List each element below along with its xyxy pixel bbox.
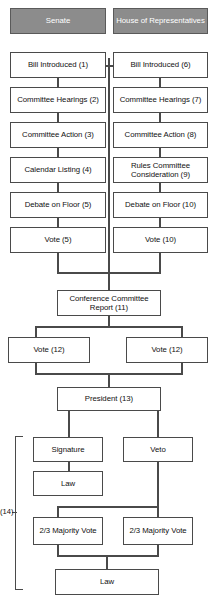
node-conference-vote-senate-label: Vote (12) (31, 345, 66, 354)
connector-s2-s3 (57, 113, 59, 122)
node-house-vote: Vote (10) (113, 227, 208, 253)
node-majority-vote-left: 2/3 Majority Vote (33, 517, 103, 545)
node-law-after-signature: Law (33, 471, 103, 496)
node-conference-committee-report-label: Conference Committee Report (11) (58, 294, 160, 313)
connector-merge-to-final-law (106, 555, 108, 569)
node-conference-committee-report: Conference Committee Report (11) (57, 290, 161, 316)
connector-merge-to-president (108, 373, 110, 387)
column-header-senate-label: Senate (44, 16, 72, 25)
node-president-label: President (13) (83, 394, 135, 403)
node-senate-committee-hearings-label: Committee Hearings (2) (15, 95, 101, 104)
connector-s1-s2 (57, 78, 59, 87)
legislative-process-flowchart: Senate House of Representatives Bill Int… (0, 0, 218, 608)
node-president: President (13) (57, 387, 161, 411)
column-header-house: House of Representatives (113, 8, 208, 34)
connector-override-merge-bar (57, 555, 159, 557)
node-senate-calendar-listing-label: Calendar Listing (4) (22, 165, 93, 174)
connector-s3-s4 (57, 148, 59, 157)
node-signature: Signature (33, 437, 103, 462)
node-house-bill-introduced: Bill Introduced (6) (113, 52, 208, 78)
connector-s4-s5 (57, 183, 59, 192)
node-senate-committee-action-label: Committee Action (3) (20, 130, 96, 139)
connector-s5-s6 (57, 218, 59, 227)
node-senate-committee-hearings: Committee Hearings (2) (10, 87, 106, 113)
node-conference-vote-senate: Vote (12) (8, 337, 90, 363)
node-house-committee-hearings: Committee Hearings (7) (113, 87, 208, 113)
connector-president-to-veto (157, 411, 159, 437)
node-law-after-signature-label: Law (59, 479, 77, 488)
node-senate-bill-introduced-label: Bill Introduced (1) (26, 60, 90, 69)
connector-override-split-bar (57, 506, 159, 508)
node-house-committee-hearings-label: Committee Hearings (7) (118, 95, 204, 104)
node-house-committee-action-label: Committee Action (8) (123, 130, 199, 139)
connector-conference-split-bar (35, 326, 183, 328)
connector-senate-vote-down (57, 253, 59, 274)
node-house-debate-on-floor: Debate on Floor (10) (113, 192, 208, 218)
node-veto: Veto (123, 437, 193, 462)
node-house-debate-on-floor-label: Debate on Floor (10) (123, 200, 198, 209)
node-senate-calendar-listing: Calendar Listing (4) (10, 157, 106, 183)
node-senate-vote: Vote (5) (10, 227, 106, 253)
node-senate-committee-action: Committee Action (3) (10, 122, 106, 148)
node-veto-label: Veto (148, 445, 167, 454)
node-senate-debate-on-floor-label: Debate on Floor (5) (23, 200, 94, 209)
annotation-14: (14) (0, 507, 14, 516)
column-header-senate: Senate (10, 8, 106, 34)
node-house-rules-committee-label: Rules Committee Consideration (9) (114, 161, 207, 180)
node-majority-vote-left-label: 2/3 Majority Vote (37, 526, 98, 535)
connector-house-vote-down (159, 253, 161, 274)
connector-h4-h5 (159, 183, 161, 192)
connector-veto-down (157, 462, 159, 508)
connector-h5-h6 (159, 218, 161, 227)
node-senate-debate-on-floor: Debate on Floor (5) (10, 192, 106, 218)
node-house-rules-committee: Rules Committee Consideration (9) (113, 157, 208, 183)
connector-merge-to-conference (108, 272, 110, 290)
node-signature-label: Signature (50, 445, 87, 454)
connector-h3-h4 (159, 148, 161, 157)
node-house-committee-action: Committee Action (8) (113, 122, 208, 148)
node-house-vote-label: Vote (10) (143, 235, 178, 244)
column-header-house-label: House of Representatives (114, 16, 207, 25)
node-senate-vote-label: Vote (5) (43, 235, 74, 244)
node-majority-vote-right-label: 2/3 Majority Vote (127, 526, 188, 535)
node-conference-vote-house: Vote (12) (126, 337, 208, 363)
connector-president-to-signature (68, 411, 70, 437)
node-final-law: Law (55, 569, 159, 595)
node-senate-bill-introduced: Bill Introduced (1) (10, 52, 106, 78)
connector-h2-h3 (159, 113, 161, 122)
node-majority-vote-right: 2/3 Majority Vote (123, 517, 193, 545)
connector-center-spine (108, 58, 110, 290)
node-house-bill-introduced-label: Bill Introduced (6) (128, 60, 192, 69)
connector-h1-h2 (159, 78, 161, 87)
node-final-law-label: Law (98, 577, 116, 586)
node-conference-vote-house-label: Vote (12) (149, 345, 184, 354)
